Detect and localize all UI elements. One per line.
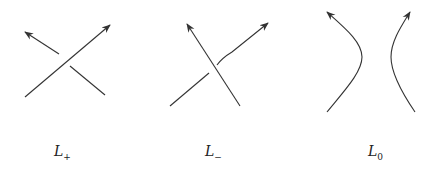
smoothing-L-zero [327, 12, 415, 112]
label-L-minus: L− [205, 143, 222, 162]
label-main: L [205, 143, 214, 159]
over-strand [25, 25, 110, 97]
left-arc [327, 12, 362, 112]
label-subscript: 0 [377, 152, 383, 162]
label-L-zero: L0 [368, 143, 383, 162]
under-strand-upper [25, 32, 59, 54]
label-subscript: + [63, 152, 71, 162]
over-strand [187, 24, 240, 106]
label-main: L [368, 143, 377, 159]
crossing-L-minus [170, 23, 268, 106]
label-L-plus: L+ [54, 143, 71, 162]
under-strand-lower [170, 73, 209, 106]
under-strand-upper [217, 23, 268, 65]
label-main: L [54, 143, 63, 159]
label-subscript: − [214, 152, 222, 162]
right-arc [391, 12, 415, 112]
under-strand-lower [70, 66, 105, 95]
crossing-L-plus [25, 25, 110, 97]
